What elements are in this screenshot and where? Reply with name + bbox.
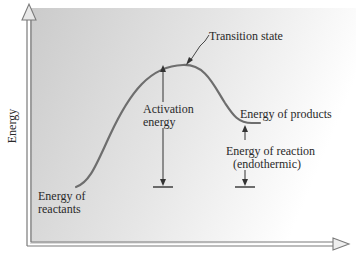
reaction-energy-label-2: (endothermic)	[233, 157, 301, 171]
products-label: Energy of products	[240, 107, 332, 121]
energy-diagram: Energy Transition state Activation energ…	[0, 0, 356, 257]
reactants-label-2: reactants	[38, 202, 81, 216]
activation-energy-label-1: Activation	[143, 102, 194, 116]
y-axis-label: Energy	[5, 109, 19, 143]
reaction-energy-label-1: Energy of reaction	[226, 144, 315, 158]
reactants-label-1: Energy of	[38, 189, 85, 203]
activation-energy-label-2: energy	[143, 115, 175, 129]
transition-state-label: Transition state	[209, 29, 283, 43]
